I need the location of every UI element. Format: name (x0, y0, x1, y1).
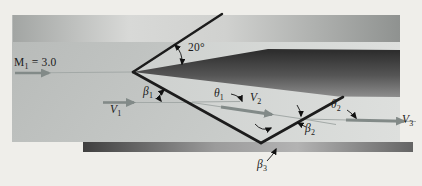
label-beta1: β1 (143, 86, 153, 100)
label-v3: V3 (402, 114, 413, 128)
label-theta1: θ1 (214, 88, 224, 102)
top-wall (13, 15, 400, 42)
label-v2: V2 (250, 92, 261, 106)
diagram-canvas (0, 0, 422, 186)
label-wedge-angle: 20° (188, 42, 205, 54)
label-theta2: θ2 (331, 99, 341, 113)
v3-arrow (346, 120, 404, 121)
shock-diagram-figure: M1 = 3.0 20° V1 β1 θ1 V2 θ2 V3 β2 β3 (0, 0, 422, 186)
label-beta3: β3 (257, 159, 267, 173)
label-beta2: β2 (305, 123, 315, 137)
label-v1: V1 (110, 104, 121, 118)
bottom-wall (83, 142, 413, 152)
label-mach-number: M1 = 3.0 (14, 57, 56, 71)
